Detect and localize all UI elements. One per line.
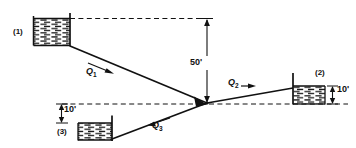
diagram-canvas	[0, 0, 356, 148]
flow-q3-label: Q3	[152, 121, 163, 132]
reservoir-2-label: (2)	[315, 69, 325, 77]
flow-q3-symbol: Q	[152, 120, 159, 130]
flow-q1-label: Q1	[86, 67, 97, 78]
dimension-50ft-label: 50'	[190, 58, 202, 67]
reservoir-1	[34, 13, 71, 47]
reservoir-3-label: (3)	[57, 128, 67, 136]
flow-q3-subscript: 3	[159, 125, 163, 132]
reservoir-2	[293, 73, 325, 105]
dimension-10ft-left-value: 10	[64, 104, 74, 114]
dimension-50ft-unit: '	[200, 57, 202, 67]
dimension-10ft-right-unit: '	[347, 84, 349, 94]
three-reservoir-diagram: (1) (2) (3) 50' 10' 10' Q1 Q2 Q3	[0, 0, 356, 148]
flow-q2-symbol: Q	[228, 77, 235, 87]
reservoir-3	[78, 116, 113, 142]
dimension-50ft	[201, 19, 213, 104]
pipe-2	[207, 83, 293, 103]
flow-q1-subscript: 1	[93, 71, 97, 78]
dimension-10ft-right-value: 10	[337, 84, 347, 94]
flow-q2-subscript: 2	[235, 82, 239, 89]
reservoir-1-label: (1)	[13, 28, 23, 36]
flow-q2-label: Q2	[228, 78, 239, 89]
flow-q1-symbol: Q	[86, 66, 93, 76]
dimension-50ft-value: 50	[190, 57, 200, 67]
dimension-10ft-right-label: 10'	[337, 85, 349, 94]
dimension-10ft-left-label: 10'	[64, 105, 76, 114]
dimension-10ft-left-unit: '	[74, 104, 76, 114]
